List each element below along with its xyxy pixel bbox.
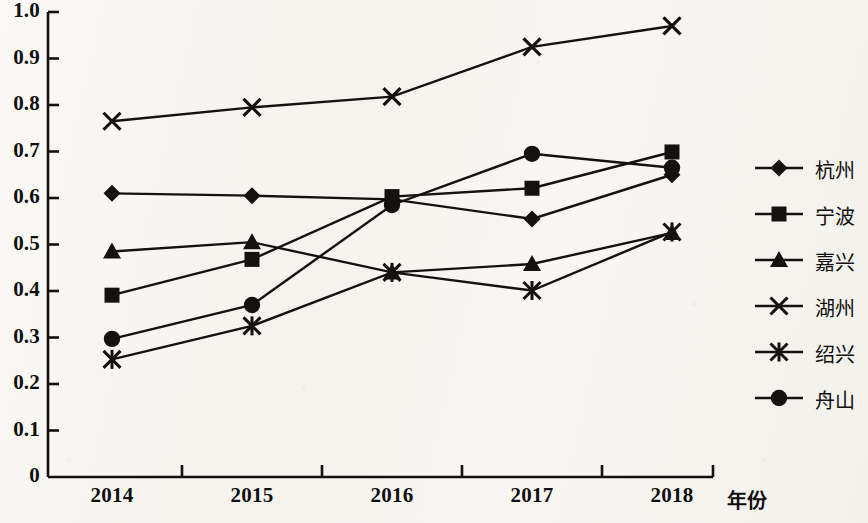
marker-square (245, 252, 260, 267)
y-axis-tick-label: 0.1 (0, 417, 40, 442)
marker-square (665, 144, 680, 159)
x-axis-title: 年份 (727, 485, 767, 514)
legend-label: 湖州 (815, 293, 855, 322)
marker-circle (664, 160, 680, 176)
y-axis-tick-label: 0 (0, 463, 40, 488)
marker-circle (384, 197, 400, 213)
x-axis-tick-label: 2017 (492, 483, 572, 508)
marker-diamond (244, 187, 261, 204)
marker-circle (244, 297, 260, 313)
marker-circle (524, 146, 540, 162)
series-markers-4 (104, 222, 681, 368)
marker-circle (104, 331, 120, 347)
legend-label: 嘉兴 (815, 247, 855, 276)
y-axis-tick-label: 0.3 (0, 324, 40, 349)
marker-asterisk (664, 222, 681, 241)
x-axis-tick-label: 2018 (632, 483, 712, 508)
legend-label: 宁波 (815, 201, 855, 230)
marker-asterisk (244, 316, 261, 335)
series-markers (103, 17, 681, 368)
x-axis-tick-label: 2015 (212, 483, 292, 508)
marker-diamond (104, 185, 121, 202)
marker-diamond (524, 210, 541, 227)
marker-square (525, 181, 540, 196)
y-axis-tick-label: 0.5 (0, 231, 40, 256)
y-axis-tick-label: 0.8 (0, 91, 40, 116)
marker-asterisk (104, 350, 121, 369)
chart-canvas (0, 0, 868, 523)
marker-triangle (243, 233, 261, 249)
legend-label: 杭州 (815, 155, 855, 184)
axes (48, 12, 713, 477)
series-line-3 (112, 26, 672, 121)
y-axis-tick-label: 0.2 (0, 370, 40, 395)
y-axis-tick-label: 1.0 (0, 0, 40, 23)
y-axis-tick-label: 0.4 (0, 277, 40, 302)
legend-label: 舟山 (815, 385, 855, 414)
marker-square (105, 288, 120, 303)
legend-label: 绍兴 (815, 339, 855, 368)
y-axis-tick-label: 0.7 (0, 138, 40, 163)
y-axis-tick-label: 0.9 (0, 45, 40, 70)
y-axis-tick-label: 0.6 (0, 184, 40, 209)
x-axis-tick-label: 2016 (352, 483, 432, 508)
x-axis-tick-label: 2014 (72, 483, 152, 508)
